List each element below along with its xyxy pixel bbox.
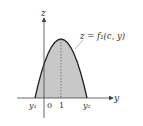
tick-label-y2: y₂ — [82, 101, 91, 110]
y-axis-label: y — [113, 93, 120, 103]
curve-label: z = f₁(c, y) — [79, 31, 125, 41]
tick-label-0: 0 — [47, 101, 52, 110]
label-leader — [75, 40, 83, 49]
tick-label-y1: y₁ — [28, 101, 37, 110]
diagram: z y z = f₁(c, y) y₁ 0 1 y₂ — [0, 0, 143, 126]
z-axis-label: z — [40, 8, 46, 18]
tick-label-1: 1 — [59, 101, 64, 110]
